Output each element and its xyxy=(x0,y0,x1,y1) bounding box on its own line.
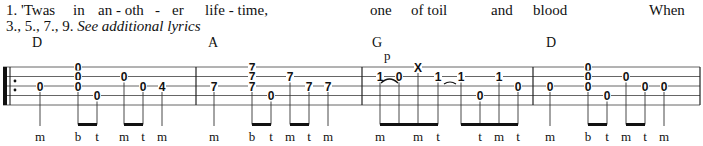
beam xyxy=(380,123,438,126)
fret-number: 7 xyxy=(325,80,332,94)
fret-number: 0 xyxy=(604,89,611,103)
picking-finger: m xyxy=(157,129,167,144)
picking-finger: m xyxy=(285,129,295,144)
fret-number: 0 xyxy=(623,70,630,84)
picking-finger: m xyxy=(119,129,129,144)
picking-finger: t xyxy=(95,129,99,144)
picking-finger: m xyxy=(375,129,385,144)
picking-finger: m xyxy=(209,129,219,144)
fret-number: 7 xyxy=(249,80,256,94)
fret-number: 0 xyxy=(75,80,82,94)
fret-number: 7 xyxy=(306,80,313,94)
repeat-dot xyxy=(14,89,17,92)
fret-number: 0 xyxy=(477,89,484,103)
fret-number: X xyxy=(414,61,422,75)
fret-number: 0 xyxy=(585,80,592,94)
picking-finger: m xyxy=(659,129,669,144)
picking-finger: b xyxy=(249,129,256,144)
banjo-tablature-staff: 0m000b0t0m0t4m7m777b0t7m7t7m1m0Xm1t10t1m… xyxy=(0,0,703,146)
tie-arc xyxy=(444,82,456,84)
picking-finger: m xyxy=(413,129,423,144)
fret-number: 0 xyxy=(94,89,101,103)
fret-number: 0 xyxy=(121,70,128,84)
beam xyxy=(252,123,271,126)
beam xyxy=(588,123,607,126)
fret-number: 7 xyxy=(287,70,294,84)
picking-finger: t xyxy=(605,129,609,144)
picking-finger: t xyxy=(516,129,520,144)
beam xyxy=(124,123,143,126)
fret-number: 0 xyxy=(37,80,44,94)
beam xyxy=(78,123,97,126)
pull-off-label: p xyxy=(384,48,391,63)
picking-finger: m xyxy=(545,129,555,144)
fret-number: 0 xyxy=(661,80,668,94)
fret-number: 0 xyxy=(547,80,554,94)
picking-finger: b xyxy=(585,129,592,144)
fret-number: 1 xyxy=(435,70,442,84)
fret-number: 0 xyxy=(268,89,275,103)
fret-number: 7 xyxy=(211,80,218,94)
picking-finger: t xyxy=(436,129,440,144)
fret-number: 1 xyxy=(496,70,503,84)
picking-finger: m xyxy=(323,129,333,144)
picking-finger: m xyxy=(494,129,504,144)
fret-number: 4 xyxy=(159,80,166,94)
picking-finger: m xyxy=(35,129,45,144)
beam xyxy=(290,123,309,126)
fret-number: 0 xyxy=(140,80,147,94)
picking-finger: t xyxy=(643,129,647,144)
picking-finger: t xyxy=(307,129,311,144)
fret-number: 0 xyxy=(642,80,649,94)
beam xyxy=(626,123,645,126)
fret-number: 0 xyxy=(515,80,522,94)
picking-finger: b xyxy=(75,129,82,144)
picking-finger: m xyxy=(621,129,631,144)
repeat-dot xyxy=(14,80,17,83)
thick-barline xyxy=(3,67,7,105)
picking-finger: t xyxy=(269,129,273,144)
beam xyxy=(461,123,518,126)
picking-finger: t xyxy=(478,129,482,144)
picking-finger: t xyxy=(141,129,145,144)
fret-number: 1 xyxy=(458,70,465,84)
